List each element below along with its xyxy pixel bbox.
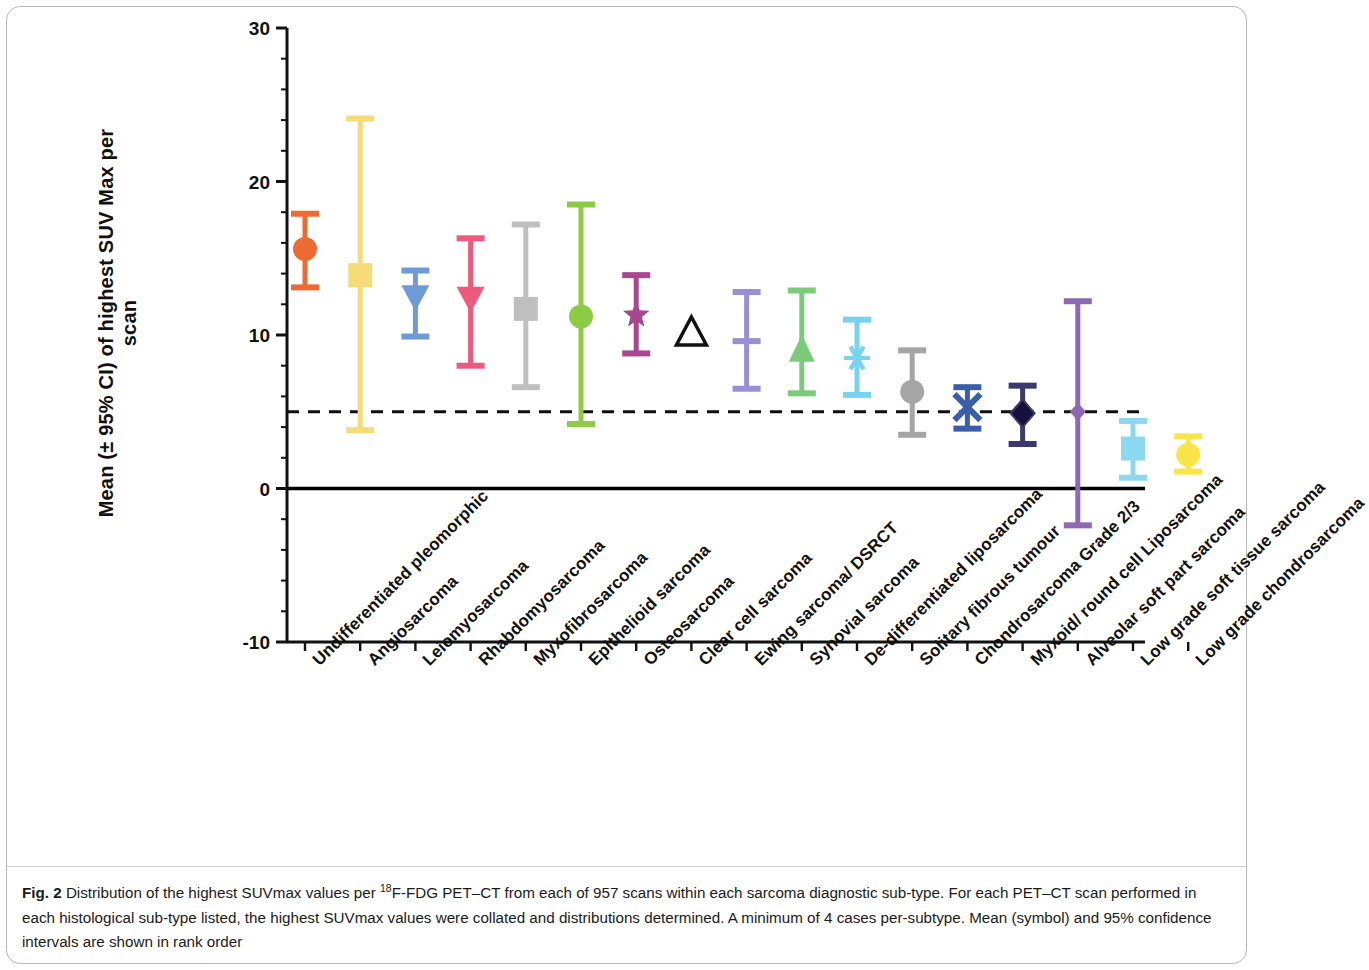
- data-point-group: [733, 292, 761, 389]
- marker-triangle-down: [401, 285, 429, 311]
- figure-label: Fig. 2: [22, 884, 62, 901]
- data-point-group: [346, 119, 374, 431]
- data-point-group: [291, 214, 319, 288]
- y-tick-label: 30: [249, 18, 270, 39]
- marker-square: [514, 297, 538, 321]
- data-point-group: [401, 271, 429, 337]
- data-point-group: [953, 387, 981, 428]
- data-point-group: [567, 205, 595, 425]
- data-point-group: [1174, 436, 1202, 471]
- marker-triangle-down: [457, 287, 485, 313]
- data-point-group: [1009, 386, 1037, 444]
- y-tick-label: 0: [259, 479, 270, 500]
- data-point-group: [898, 350, 926, 434]
- data-point-group: [676, 317, 706, 345]
- marker-square: [348, 263, 372, 287]
- caption-divider: [7, 866, 1246, 867]
- marker-circle: [569, 305, 593, 329]
- marker-circle: [293, 237, 317, 261]
- y-tick-label: 10: [249, 325, 270, 346]
- marker-square: [1121, 437, 1145, 461]
- caption-superscript: 18: [380, 882, 392, 894]
- data-point-group: [457, 238, 485, 365]
- caption-text-1: Distribution of the highest SUVmax value…: [66, 884, 380, 901]
- data-point-group: [1119, 421, 1147, 478]
- data-point-group: [512, 224, 540, 387]
- marker-diamond-small: [1070, 403, 1086, 421]
- data-point-group: [843, 320, 871, 395]
- marker-diamond: [1011, 399, 1035, 427]
- data-point-group: [788, 290, 816, 393]
- data-point-group: [622, 275, 650, 353]
- marker-triangle-up: [789, 335, 815, 362]
- y-tick-label: -10: [243, 632, 270, 653]
- marker-circle: [900, 380, 924, 404]
- y-tick-label: 20: [249, 172, 270, 193]
- marker-triangle-open: [676, 317, 706, 345]
- figure-caption: Fig. 2 Distribution of the highest SUVma…: [22, 880, 1222, 955]
- data-point-group: [1064, 301, 1092, 525]
- marker-circle: [1176, 443, 1200, 467]
